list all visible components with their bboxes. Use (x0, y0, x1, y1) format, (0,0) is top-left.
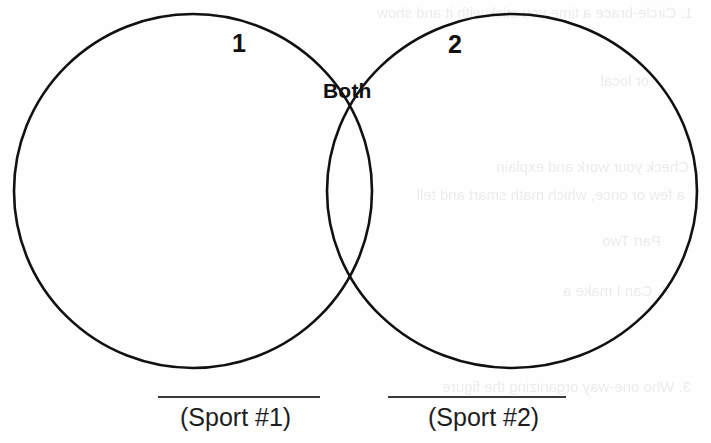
venn-region-label-left: 1 (232, 29, 246, 58)
answer-field-sport-2[interactable]: (Sport #2) (388, 396, 566, 430)
venn-circle-left (14, 14, 372, 368)
venn-diagram-circles (0, 0, 711, 443)
answer-field-sport-1[interactable]: (Sport #1) (158, 396, 320, 430)
venn-region-label-right: 2 (448, 30, 462, 59)
venn-circle-right (327, 14, 697, 368)
answer-caption-2: (Sport #2) (388, 398, 566, 430)
answer-caption-1: (Sport #1) (158, 398, 320, 430)
venn-region-label-intersection: Both (323, 79, 372, 103)
venn-diagram-worksheet: 1. Circle-brace a time you stick with it… (0, 0, 711, 443)
